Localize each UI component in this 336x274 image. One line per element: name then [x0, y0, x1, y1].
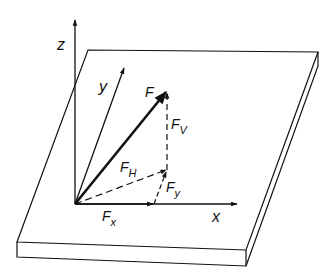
F-label: F — [145, 84, 155, 100]
z-axis-label: z — [56, 36, 65, 53]
x-axis-label: x — [211, 208, 221, 225]
y-axis-label: y — [98, 78, 108, 95]
force-diagram: z y x F FV FH Fy Fx — [0, 0, 336, 274]
